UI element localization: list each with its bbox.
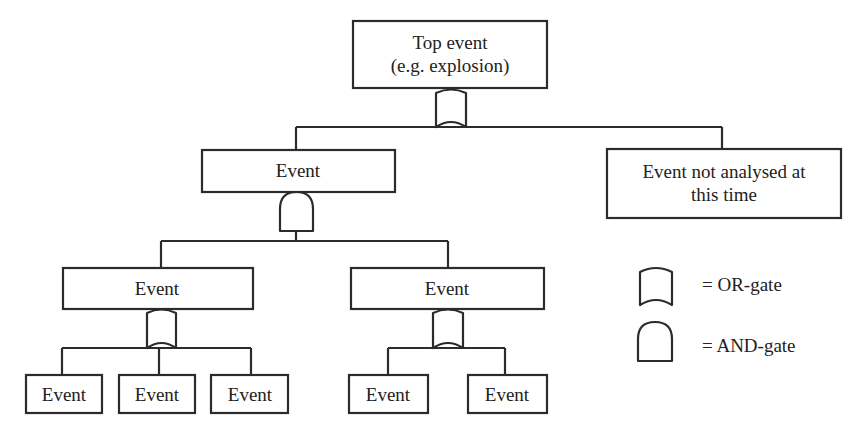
event-label: Event	[366, 384, 411, 405]
node-l1-right-undeveloped: Event not analysed at this time	[607, 149, 841, 218]
event-label: Event	[485, 384, 530, 405]
node-l2-right: Event	[351, 268, 544, 309]
or-gate-icon	[436, 90, 466, 128]
legend-label-or: = OR-gate	[702, 274, 782, 295]
event-label: Event	[42, 384, 87, 405]
node-top-event: Top event (e.g. explosion)	[353, 21, 547, 88]
legend-label-and: = AND-gate	[702, 335, 796, 356]
event-label: (e.g. explosion)	[391, 55, 510, 77]
legend-item-or: = OR-gate	[640, 268, 782, 305]
event-label: Event	[135, 278, 180, 299]
and-gate-icon	[280, 192, 313, 231]
or-gate-icon	[640, 268, 672, 305]
node-l3-c: Event	[211, 375, 288, 413]
event-label: Event	[135, 384, 180, 405]
node-l3-e: Event	[468, 375, 547, 413]
legend-item-and: = AND-gate	[638, 322, 796, 361]
event-label: Event	[276, 160, 321, 181]
fault-tree-diagram: Top event (e.g. explosion) Event Event n…	[0, 0, 860, 437]
legend: = OR-gate = AND-gate	[638, 268, 796, 361]
or-gate-icon	[147, 310, 176, 349]
node-l2-left: Event	[63, 268, 253, 309]
event-label: Event	[425, 278, 470, 299]
event-label: this time	[691, 184, 757, 205]
node-l1-left: Event	[202, 150, 395, 192]
event-label: Event	[228, 384, 273, 405]
event-label: Event not analysed at	[642, 161, 806, 182]
event-label: Top event	[412, 32, 488, 53]
and-gate-icon	[638, 322, 672, 361]
node-l3-d: Event	[349, 375, 428, 413]
node-l3-b: Event	[119, 375, 195, 413]
node-l3-a: Event	[26, 375, 102, 413]
or-gate-icon	[433, 310, 463, 349]
